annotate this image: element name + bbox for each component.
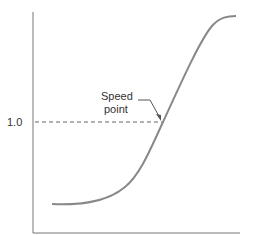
ytick-label: 1.0	[7, 116, 22, 128]
chart: Speed point 1.0	[0, 0, 255, 235]
annotation-speed: Speed	[101, 90, 133, 102]
annotation-leader	[138, 100, 160, 118]
s-curve	[52, 16, 236, 204]
annotation-point: point	[104, 103, 128, 115]
arrowhead-icon	[156, 114, 161, 121]
chart-plot	[0, 0, 255, 235]
